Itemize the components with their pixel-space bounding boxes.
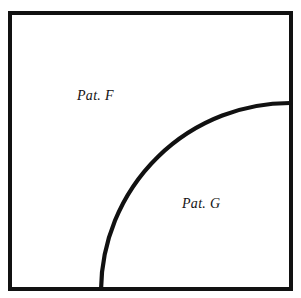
region-label-pat-f: Pat. F (77, 89, 114, 103)
region-diagram-svg (0, 0, 301, 298)
region-label-pat-g: Pat. G (182, 197, 220, 211)
figure-canvas: Pat. F Pat. G (0, 0, 301, 298)
figure-background (0, 0, 301, 298)
